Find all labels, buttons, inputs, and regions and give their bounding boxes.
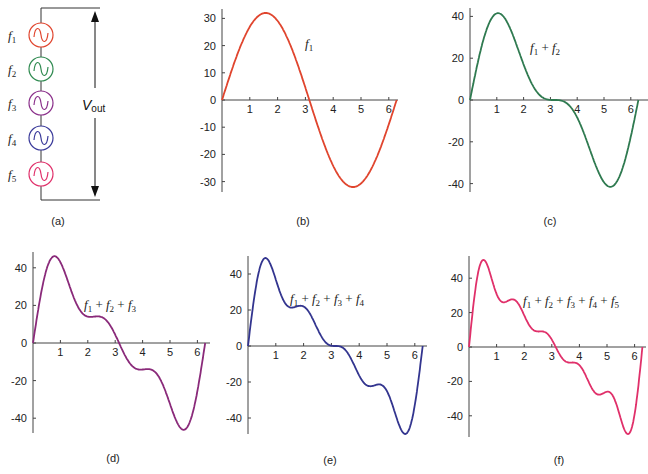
x-tick-label: 6	[628, 103, 634, 115]
caption-c: (c)	[544, 215, 557, 227]
y-tick-label: -20	[447, 375, 463, 387]
y-tick-label: -40	[447, 410, 463, 422]
y-tick-label: 20	[204, 40, 216, 52]
figure-canvas: f1f2f3f4f5Vout(a)1234563020100-10-20-30f…	[0, 0, 648, 474]
x-tick-label: 3	[302, 103, 308, 115]
circuit-diagram: f1f2f3f4f5Vout(a)	[8, 8, 105, 227]
x-tick-label: 3	[549, 350, 555, 362]
x-tick-label: 2	[275, 103, 281, 115]
source-label: f1	[8, 28, 16, 45]
arrow-down-icon	[91, 186, 99, 197]
x-tick-label: 5	[167, 346, 173, 358]
x-tick-label: 5	[604, 350, 610, 362]
arrow-up-icon	[91, 11, 99, 22]
caption-d: (d)	[106, 452, 119, 464]
y-tick-label: 40	[451, 272, 463, 284]
x-tick-label: 4	[140, 346, 146, 358]
y-tick-label: 20	[15, 299, 27, 311]
x-tick-label: 5	[358, 103, 364, 115]
voltage-source-2: f2	[8, 57, 53, 81]
x-tick-label: 5	[384, 349, 390, 361]
plot-e: 12345640200-20-40f1 + f2 + f3 + f4(e)	[226, 256, 427, 466]
y-tick-label: -20	[448, 136, 464, 148]
plot-f: 12345640200-20-40f1 + f2 + f3 + f4 + f5(…	[447, 256, 646, 466]
voltage-source-4: f4	[8, 126, 53, 150]
x-tick-label: 3	[547, 103, 553, 115]
y-tick-label: 30	[204, 12, 216, 24]
x-tick-label: 6	[386, 103, 392, 115]
y-tick-label: 40	[15, 262, 27, 274]
y-tick-label: 20	[230, 304, 242, 316]
y-tick-label: -10	[200, 121, 216, 133]
y-tick-label: 10	[204, 67, 216, 79]
vout-label: Vout	[82, 97, 105, 114]
y-tick-label: -40	[226, 412, 242, 424]
x-tick-label: 1	[494, 350, 500, 362]
x-tick-label: 6	[632, 350, 638, 362]
series-annotation: f1 + f2 + f3	[84, 297, 137, 314]
x-tick-label: 1	[247, 103, 253, 115]
x-tick-label: 2	[301, 349, 307, 361]
x-tick-label: 1	[494, 103, 500, 115]
y-tick-label: 0	[210, 94, 216, 106]
y-tick-label: -30	[200, 176, 216, 188]
source-label: f5	[8, 167, 17, 184]
y-tick-label: 0	[457, 341, 463, 353]
x-tick-label: 4	[576, 350, 582, 362]
y-tick-label: -40	[11, 412, 27, 424]
x-tick-label: 5	[601, 103, 607, 115]
y-tick-label: 0	[21, 337, 27, 349]
y-tick-label: 20	[451, 307, 463, 319]
source-label: f4	[8, 131, 17, 148]
y-tick-label: -20	[200, 148, 216, 160]
voltage-source-3: f3	[8, 91, 53, 115]
x-tick-label: 3	[328, 349, 334, 361]
x-tick-label: 4	[330, 103, 336, 115]
y-tick-label: 20	[452, 52, 464, 64]
series-annotation: f1	[305, 36, 313, 53]
y-tick-label: 40	[452, 10, 464, 22]
y-tick-label: -20	[11, 375, 27, 387]
voltage-source-1: f1	[8, 23, 53, 47]
source-label: f2	[8, 62, 16, 79]
plot-c: 12345640200-20-40f1 + f2(c)	[448, 8, 648, 227]
x-tick-label: 1	[273, 349, 279, 361]
series-annotation: f1 + f2 + f3 + f4 + f5	[523, 293, 620, 310]
x-tick-label: 4	[356, 349, 362, 361]
plot-b: 1234563020100-10-20-30f1(b)	[200, 9, 398, 227]
y-tick-label: -40	[448, 178, 464, 190]
voltage-source-5: f5	[8, 162, 53, 186]
x-tick-label: 3	[112, 346, 118, 358]
source-label: f3	[8, 96, 17, 113]
x-tick-label: 6	[194, 346, 200, 358]
series-annotation: f1 + f2 + f3 + f4	[290, 291, 365, 308]
x-tick-label: 2	[521, 350, 527, 362]
series-annotation: f1 + f2	[530, 40, 560, 57]
y-tick-label: -20	[226, 376, 242, 388]
caption-f: (f)	[554, 454, 564, 466]
x-tick-label: 1	[57, 346, 63, 358]
caption-e: (e)	[323, 454, 336, 466]
caption-b: (b)	[296, 215, 309, 227]
x-tick-label: 6	[412, 349, 418, 361]
y-tick-label: 40	[230, 268, 242, 280]
y-tick-label: 0	[458, 94, 464, 106]
plot-d: 12345640200-20-40f1 + f2 + f3(d)	[11, 252, 210, 464]
caption-a: (a)	[51, 215, 64, 227]
x-tick-label: 2	[85, 346, 91, 358]
y-tick-label: 0	[236, 340, 242, 352]
x-tick-label: 2	[521, 103, 527, 115]
